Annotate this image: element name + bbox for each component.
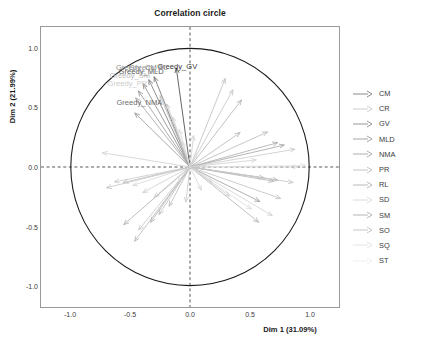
legend-arrow-icon [352, 118, 374, 130]
legend-label: CR [374, 104, 390, 113]
legend-item: NMA [352, 147, 424, 162]
legend-arrow-icon [352, 103, 374, 115]
legend-arrow-icon [352, 88, 374, 100]
legend-label: SQ [374, 241, 390, 250]
legend-label: SD [374, 195, 389, 204]
x-tick-label: 1.0 [290, 311, 330, 318]
legend-label: PR [374, 165, 389, 174]
legend-arrow-icon [352, 164, 374, 176]
correlation-circle-figure: Correlation circle Dim 2 (21.99%) Dim 1 … [0, 0, 426, 354]
y-tick-label: 0.5 [4, 104, 38, 111]
legend-arrow-icon [352, 133, 374, 145]
correlation-plot-svg [41, 27, 339, 307]
variable-arrow [143, 84, 190, 167]
y-tick-label: -1.0 [4, 283, 38, 290]
legend-label: NMA [374, 150, 395, 159]
variable-arrow [190, 90, 233, 167]
legend-item: SM [352, 208, 424, 223]
legend-label: MLD [374, 135, 395, 144]
legend: CMCRGVMLDNMAPRRLSDSMSOSQST [352, 86, 424, 268]
variable-arrow [160, 96, 190, 167]
legend-label: GV [374, 119, 390, 128]
plot-area: Greedy_GVGreedy_MLDGreedy_CMGreedy_RLGre… [40, 26, 340, 308]
x-tick-label: -1.0 [50, 311, 90, 318]
legend-label: SM [374, 211, 390, 220]
variable-arrow [102, 153, 190, 167]
y-tick-label: -0.5 [4, 223, 38, 230]
variable-arrow [173, 117, 190, 167]
x-tick-label: 0.5 [230, 311, 270, 318]
legend-label: ST [374, 256, 388, 265]
variable-arrow [190, 143, 278, 167]
legend-item: SO [352, 223, 424, 238]
x-axis-ticks: -1.0-0.50.00.51.0 [40, 311, 340, 325]
x-tick-label: 0.0 [170, 311, 210, 318]
legend-item: PR [352, 162, 424, 177]
legend-arrow-icon [352, 255, 374, 267]
y-axis-ticks: 1.00.50.0-0.5-1.0 [0, 26, 38, 308]
x-tick-label: -0.5 [110, 311, 150, 318]
legend-item: CM [352, 86, 424, 101]
variable-arrow [190, 149, 295, 167]
variable-arrow [190, 133, 240, 167]
legend-arrow-icon [352, 239, 374, 251]
legend-label: SO [374, 226, 390, 235]
legend-arrow-icon [352, 179, 374, 191]
legend-item: SD [352, 192, 424, 207]
legend-item: RL [352, 177, 424, 192]
y-tick-label: 1.0 [4, 44, 38, 51]
legend-item: GV [352, 116, 424, 131]
legend-item: MLD [352, 132, 424, 147]
legend-item: CR [352, 101, 424, 116]
legend-arrow-icon [352, 194, 374, 206]
legend-label: RL [374, 180, 388, 189]
variable-arrow [135, 113, 190, 167]
x-axis-label: Dim 1 (31.09%) [230, 325, 350, 334]
legend-arrow-icon [352, 209, 374, 221]
legend-arrow-icon [352, 148, 374, 160]
legend-item: SQ [352, 238, 424, 253]
legend-arrow-icon [352, 224, 374, 236]
page-title: Correlation circle [40, 8, 340, 18]
legend-item: ST [352, 253, 424, 268]
legend-label: CM [374, 89, 391, 98]
y-tick-label: 0.0 [4, 164, 38, 171]
